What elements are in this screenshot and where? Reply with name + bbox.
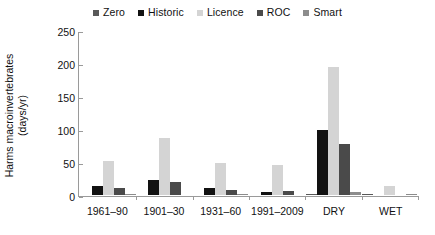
y-axis-title: Harms macroinvertebrates (days/yr) <box>2 32 30 198</box>
bar-historic[interactable] <box>261 192 272 195</box>
legend-swatch-zero-icon <box>93 10 99 16</box>
x-axis-tick-mark <box>305 196 306 200</box>
bar-roc[interactable] <box>283 191 294 195</box>
x-axis-tick-mark <box>249 196 250 200</box>
bar-smart[interactable] <box>125 194 136 195</box>
x-axis-tick-mark <box>418 196 419 200</box>
bar-chart: ZeroHistoricLicenceROCSmart Harms macroi… <box>0 0 435 235</box>
bar-group <box>193 32 249 195</box>
legend-swatch-historic-icon <box>138 10 144 16</box>
legend-swatch-licence-icon <box>197 10 203 16</box>
bar-smart[interactable] <box>237 194 248 195</box>
x-axis-label: 1991–2009 <box>249 205 306 217</box>
x-axis-label: DRY <box>306 205 363 217</box>
y-axis-tick-label: 200 <box>57 60 79 71</box>
bar-group <box>136 32 192 195</box>
legend-item-zero[interactable]: Zero <box>93 7 125 18</box>
bar-group <box>80 32 136 195</box>
bar-zero[interactable] <box>306 194 317 195</box>
bar-group <box>249 32 305 195</box>
chart-legend: ZeroHistoricLicenceROCSmart <box>0 7 435 18</box>
bar-groups <box>80 32 418 195</box>
y-axis-tick-label: 150 <box>57 93 79 104</box>
bar-roc[interactable] <box>226 190 237 195</box>
y-axis-title-line1: Harms macroinvertebrates <box>4 53 16 177</box>
legend-label: Historic <box>148 7 184 18</box>
y-axis-tick-label: 250 <box>57 27 79 38</box>
legend-swatch-smart-icon <box>303 10 309 16</box>
x-axis-label: 1961–90 <box>79 205 136 217</box>
legend-label: Zero <box>103 7 125 18</box>
bar-group <box>305 32 361 195</box>
legend-label: ROC <box>267 7 291 18</box>
legend-item-licence[interactable]: Licence <box>197 7 244 18</box>
y-axis-tick-label: 0 <box>69 192 79 203</box>
legend-item-roc[interactable]: ROC <box>257 7 291 18</box>
bar-roc[interactable] <box>339 144 350 195</box>
legend-item-smart[interactable]: Smart <box>303 7 342 18</box>
bar-historic[interactable] <box>92 186 103 195</box>
y-axis-title-line2: (days/yr) <box>16 53 29 177</box>
bar-smart[interactable] <box>406 194 417 195</box>
plot-area: 050100150200250 <box>78 32 418 197</box>
legend-swatch-roc-icon <box>257 10 263 16</box>
x-axis-label: 1901–30 <box>136 205 193 217</box>
bar-group <box>362 32 418 195</box>
x-axis-label: WET <box>362 205 419 217</box>
bar-zero[interactable] <box>362 194 373 195</box>
bar-roc[interactable] <box>170 182 181 195</box>
bar-licence[interactable] <box>103 161 114 195</box>
x-axis-tick-mark <box>193 196 194 200</box>
bar-roc[interactable] <box>114 188 125 195</box>
bar-historic[interactable] <box>148 180 159 195</box>
x-axis-labels: 1961–901901–301931–601991–2009DRYWET <box>79 205 419 217</box>
x-axis-label: 1931–60 <box>192 205 249 217</box>
bar-licence[interactable] <box>272 165 283 195</box>
x-axis-tick-mark <box>136 196 137 200</box>
bar-smart[interactable] <box>350 192 361 195</box>
bar-licence[interactable] <box>384 186 395 195</box>
bar-licence[interactable] <box>215 163 226 195</box>
y-axis-tick-label: 50 <box>63 159 79 170</box>
bar-historic[interactable] <box>317 130 328 195</box>
bar-historic[interactable] <box>204 188 215 195</box>
y-axis-tick-mark <box>79 197 83 198</box>
legend-label: Licence <box>207 7 244 18</box>
bar-licence[interactable] <box>159 138 170 195</box>
legend-item-historic[interactable]: Historic <box>138 7 184 18</box>
y-axis-tick-label: 100 <box>57 126 79 137</box>
bar-licence[interactable] <box>328 67 339 195</box>
legend-label: Smart <box>313 7 342 18</box>
x-axis-tick-mark <box>362 196 363 200</box>
